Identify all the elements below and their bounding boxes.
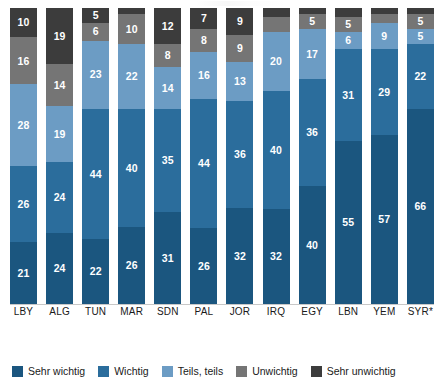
x-axis-line — [10, 304, 434, 305]
x-axis-tick-jor: JOR — [226, 306, 253, 317]
bar-segment-value: 57 — [378, 214, 390, 225]
bar-segment: 9 — [371, 23, 398, 50]
plot-area: 1016282621191419242456234422102240261281… — [10, 8, 434, 304]
bar-segment-value: 20 — [270, 56, 282, 67]
bar-segment-value: 32 — [234, 251, 246, 262]
x-axis-tick-lby: LBY — [10, 306, 37, 317]
bar-segment-value: 16 — [198, 70, 210, 81]
bar-segment: 35 — [154, 109, 181, 213]
bar-column-lbn: 563155 — [335, 8, 362, 304]
bar-segment: 22 — [82, 239, 109, 304]
bar-segment: 22 — [118, 44, 145, 109]
x-axis-tick-lbn: LBN — [335, 306, 362, 317]
legend-label: Unwichtig — [252, 366, 298, 377]
bar-segment-value: 44 — [198, 158, 210, 169]
bar-segment: 16 — [190, 52, 217, 99]
bar-segment-value: 9 — [237, 16, 243, 27]
bar-segment-value: 12 — [162, 21, 174, 32]
chart-legend: Sehr wichtigWichtigTeils, teilsUnwichtig… — [12, 362, 432, 380]
bar-segment-value: 35 — [162, 155, 174, 166]
bar-segment-value: 31 — [342, 90, 354, 101]
bar-segment-value: 24 — [54, 263, 66, 274]
bar-segment-value: 17 — [306, 49, 318, 60]
bar-segment: 32 — [226, 208, 253, 304]
legend-label: Wichtig — [114, 366, 148, 377]
bar-segment: 13 — [226, 62, 253, 101]
bar-segment-value: 9 — [381, 31, 387, 42]
bar-segment: 5 — [407, 29, 434, 44]
bar-segment-value: 10 — [126, 24, 138, 35]
bar-column-syr: 552266 — [407, 8, 434, 304]
bar-column-alg: 1914192424 — [46, 8, 73, 304]
bar-segment: 14 — [46, 64, 73, 105]
bar-segment: 14 — [154, 67, 181, 108]
legend-swatch-icon — [12, 366, 23, 377]
bar-segment-value: 29 — [378, 87, 390, 98]
legend-swatch-icon — [311, 366, 322, 377]
bar-segment: 5 — [407, 14, 434, 29]
bar-segment: 40 — [263, 91, 290, 209]
bar-segment: 55 — [335, 141, 362, 304]
bar-segment-value: 13 — [234, 76, 246, 87]
bar-segment: 5 — [82, 8, 109, 23]
bar-segment-value: 36 — [306, 127, 318, 138]
bar-segment-value: 8 — [201, 35, 207, 46]
bar-segment-value: 28 — [18, 120, 30, 131]
bar-segment-value: 6 — [93, 26, 99, 37]
bar-segment: 9 — [226, 8, 253, 35]
bar-segment-value: 5 — [345, 19, 351, 30]
bar-column-lby: 1016282621 — [10, 8, 37, 304]
bar-segment: 22 — [407, 44, 434, 109]
bar-segment: 31 — [154, 212, 181, 304]
bar-segment: 10 — [10, 8, 37, 37]
bar-segment-value: 55 — [342, 217, 354, 228]
bar-column-egy: 5173640 — [299, 8, 326, 304]
bar-segment: 40 — [299, 186, 326, 304]
bar-segment-value: 40 — [126, 163, 138, 174]
bar-segment-value: 31 — [162, 253, 174, 264]
bar-segment-value: 24 — [54, 192, 66, 203]
bar-column-irq: 204032 — [263, 8, 290, 304]
bar-column-mar: 10224026 — [118, 8, 145, 304]
bar-segment-value: 6 — [345, 35, 351, 46]
bar-segment-value: 40 — [306, 240, 318, 251]
bar-segment: 24 — [46, 162, 73, 233]
bar-segment-value: 19 — [54, 31, 66, 42]
x-axis-tick-alg: ALG — [46, 306, 73, 317]
legend-item-1: Wichtig — [98, 366, 148, 377]
bar-segment-value: 36 — [234, 149, 246, 160]
bar-segment: 17 — [299, 29, 326, 79]
bar-segment-value: 66 — [414, 201, 426, 212]
bar-segment: 31 — [335, 49, 362, 141]
legend-swatch-icon — [162, 366, 173, 377]
bar-segment-value: 8 — [165, 50, 171, 61]
bar-segment: 19 — [46, 8, 73, 64]
legend-item-4: Sehr unwichtig — [311, 366, 396, 377]
bar-segment: 44 — [82, 109, 109, 239]
bar-segment: 24 — [46, 233, 73, 304]
x-axis-tick-yem: YEM — [371, 306, 398, 317]
bar-segment: 20 — [263, 32, 290, 91]
legend-label: Teils, teils — [178, 366, 224, 377]
bar-segment-value: 26 — [18, 199, 30, 210]
bar-segment: 44 — [190, 99, 217, 228]
x-axis-tick-egy: EGY — [299, 306, 326, 317]
x-axis-tick-labels: LBYALGTUNMARSDNPALJORIRQEGYLBNYEMSYR* — [10, 306, 434, 326]
bar-segment — [263, 17, 290, 32]
bar-segment: 32 — [263, 209, 290, 304]
scan-artifact — [196, 1, 286, 6]
x-axis-tick-syr: SYR* — [407, 306, 434, 317]
bar-segment-value: 22 — [90, 266, 102, 277]
bar-segment: 26 — [10, 166, 37, 242]
legend-label: Sehr unwichtig — [327, 366, 396, 377]
bar-segment: 28 — [10, 84, 37, 166]
bar-segment: 7 — [190, 8, 217, 29]
bar-segment-value: 26 — [198, 261, 210, 272]
bar-segment-value: 14 — [54, 80, 66, 91]
bar-segment: 10 — [118, 14, 145, 44]
legend-swatch-icon — [236, 366, 247, 377]
bar-segment — [263, 8, 290, 17]
legend-item-0: Sehr wichtig — [12, 366, 85, 377]
bar-column-yem: 92957 — [371, 8, 398, 304]
bar-segment: 36 — [299, 79, 326, 186]
